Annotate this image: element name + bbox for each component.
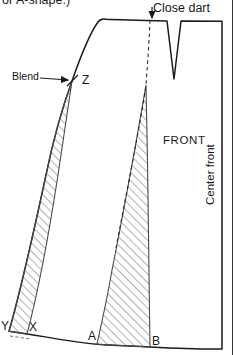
close-dart-label: Close dart [153, 2, 210, 15]
point-x-label: X [29, 321, 37, 333]
point-b-label: B [152, 335, 160, 347]
point-a-label: A [88, 330, 96, 342]
center-front-label: Center front [205, 144, 217, 205]
point-y-label: Y [1, 320, 9, 332]
point-z-label: Z [82, 74, 89, 86]
blend-arrow [40, 78, 68, 80]
hem-extension-dashed [10, 336, 30, 339]
clipped-caption: or A-shape.) [0, 0, 120, 13]
front-label: FRONT [163, 135, 206, 147]
pattern-diagram [0, 0, 234, 355]
figure-canvas: or A-shape.) Close dart Blend Z FRONT Ce… [0, 0, 234, 355]
blend-label: Blend [12, 71, 39, 82]
clipped-caption-text: or A-shape.) [2, 0, 70, 7]
